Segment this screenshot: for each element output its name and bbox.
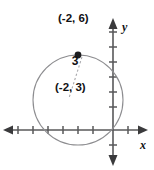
x-axis-group: x [3, 126, 148, 152]
x-axis-left-arrow-icon [3, 126, 13, 135]
y-axis-group: y [109, 18, 129, 166]
x-axis-right-arrow-icon [138, 126, 148, 135]
y-axis-label: y [120, 20, 128, 34]
y-axis-up-arrow-icon [109, 18, 118, 29]
x-axis-label: x [139, 138, 146, 152]
point-coordinate-label: (-2, 6) [58, 12, 89, 24]
circle-coordinate-diagram: x y (-2, 6) 3 (-2, 3) [0, 0, 154, 170]
radius-length-label: 3 [72, 54, 79, 68]
center-coordinate-label: (-2, 3) [55, 81, 86, 93]
diagram-canvas: x y (-2, 6) 3 (-2, 3) [0, 0, 154, 170]
y-axis-down-arrow-icon [109, 155, 118, 166]
